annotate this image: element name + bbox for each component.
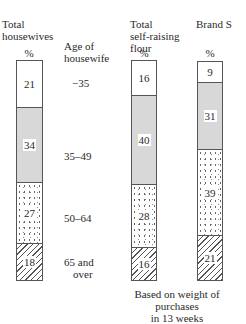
col2-title-line1: Total xyxy=(130,18,179,30)
segment-35-49: 31 xyxy=(198,82,222,149)
value-label: 40 xyxy=(132,134,156,146)
segment-50-64: 28 xyxy=(132,184,156,247)
age-label-65-over: 65 and over xyxy=(64,256,94,280)
bar-total-housewives: 21 34 27 18 xyxy=(16,60,43,281)
segment-under-35: 9 xyxy=(198,62,222,82)
value-text: 34 xyxy=(23,139,36,151)
value-text: 9 xyxy=(206,66,214,78)
value-label: 18 xyxy=(17,256,42,268)
value-label: 39 xyxy=(198,187,222,199)
value-text: 21 xyxy=(23,78,36,90)
value-text: 28 xyxy=(138,210,151,222)
segment-65-over: 18 xyxy=(17,243,42,280)
value-text: 18 xyxy=(23,256,36,268)
value-label: 28 xyxy=(132,210,156,222)
percent-label-3: % xyxy=(197,47,223,59)
col3-title: Brand S xyxy=(196,18,232,30)
chart-note: Based on weight of purchases in 13 weeks xyxy=(112,288,242,324)
age-title: Age of housewife xyxy=(64,40,109,64)
segment-50-64: 39 xyxy=(198,149,222,235)
value-label: 31 xyxy=(198,110,222,122)
age-label-under-35: −35 xyxy=(72,77,89,89)
value-label: 21 xyxy=(17,78,42,90)
value-label: 21 xyxy=(198,252,222,264)
age-label-50-64: 50–64 xyxy=(64,212,92,224)
age-title-line2: housewife xyxy=(64,52,109,64)
col1-title-line2: housewives xyxy=(2,30,53,42)
col1-title-line1: Total xyxy=(2,18,53,30)
age-label-65-line1: 65 and xyxy=(64,256,94,268)
value-label: 9 xyxy=(198,66,222,78)
value-text: 27 xyxy=(23,207,36,219)
segment-under-35: 16 xyxy=(132,61,156,95)
note-line1: Based on weight of purchases xyxy=(112,288,242,312)
age-label-65-line2: over xyxy=(64,268,94,280)
segment-35-49: 34 xyxy=(17,107,42,182)
value-text: 40 xyxy=(138,134,151,146)
segment-35-49: 40 xyxy=(132,95,156,184)
bar-total-self-raising-flour: 16 40 28 16 xyxy=(131,60,157,281)
col1-title: Total housewives xyxy=(2,18,53,42)
note-line2: in 13 weeks xyxy=(112,312,242,324)
value-text: 31 xyxy=(204,110,217,122)
value-text: 16 xyxy=(138,258,151,270)
value-label: 27 xyxy=(17,207,42,219)
bar-brand-s: 9 31 39 21 xyxy=(197,61,223,281)
age-label-35-49: 35–49 xyxy=(64,150,92,162)
percent-label-2: % xyxy=(131,47,157,59)
age-title-line1: Age of xyxy=(64,40,109,52)
col2-title-line2: self-raising xyxy=(130,30,179,42)
segment-under-35: 21 xyxy=(17,61,42,107)
value-label: 16 xyxy=(132,72,156,84)
value-text: 16 xyxy=(138,72,151,84)
value-text: 21 xyxy=(204,252,217,264)
value-text: 39 xyxy=(204,187,217,199)
percent-label-1: % xyxy=(16,47,42,59)
segment-65-over: 16 xyxy=(132,247,156,280)
value-label: 16 xyxy=(132,258,156,270)
segment-50-64: 27 xyxy=(17,182,42,243)
value-label: 34 xyxy=(17,139,42,151)
segment-65-over: 21 xyxy=(198,235,222,280)
